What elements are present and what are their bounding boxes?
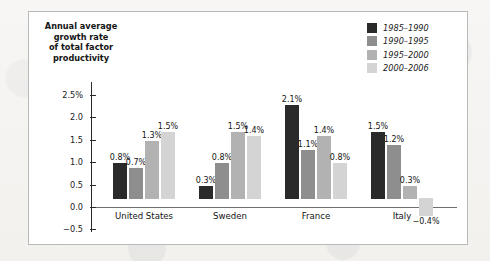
bar-group-bars: 0.3%0.8%1.5%1.4% <box>199 198 263 199</box>
y-tick-label: 1.0 <box>70 157 83 167</box>
bar-value-label: 2.1% <box>282 95 302 104</box>
bar-rect <box>317 136 331 199</box>
bar-italy-2[interactable]: 0.3% <box>403 198 417 199</box>
bar-italy-0[interactable]: 1.5% <box>371 198 385 199</box>
y-tick-label: 0.0 <box>70 202 83 212</box>
bar-value-label: 1.1% <box>298 140 318 149</box>
bar-value-label: 1.4% <box>314 126 334 135</box>
bar-value-label: 1.2% <box>384 135 404 144</box>
chart-figure: Annual averagegrowth rateof total factor… <box>0 0 490 261</box>
bar-value-label: 0.8% <box>212 153 232 162</box>
bar-value-label: 0.3% <box>400 176 420 185</box>
bar-france-3[interactable]: 0.8% <box>333 198 347 199</box>
y-tick-label: 2.5% <box>62 90 83 100</box>
y-tick-mark <box>90 117 96 118</box>
bar-value-label: 1.3% <box>142 131 162 140</box>
y-tick-mark <box>90 162 96 163</box>
bar-rect <box>301 150 315 199</box>
bar-france-1[interactable]: 1.1% <box>301 198 315 199</box>
y-tick-label: 0.5 <box>70 180 83 190</box>
bar-france-0[interactable]: 2.1% <box>285 198 299 199</box>
bar-value-label: 0.7% <box>126 158 146 167</box>
bar-italy-3[interactable]: −0.4% <box>419 198 433 199</box>
chart-panel: Annual averagegrowth rateof total factor… <box>28 11 468 245</box>
y-tick-mark <box>90 185 96 186</box>
bar-rect <box>129 168 143 199</box>
y-axis-line <box>91 82 92 232</box>
bar-group-bars: 2.1%1.1%1.4%0.8% <box>285 198 349 199</box>
bar-rect <box>215 163 229 199</box>
bar-rect <box>285 105 299 199</box>
y-tick-mark <box>90 229 96 230</box>
bar-group-bars: 1.5%1.2%0.3%−0.4% <box>371 198 435 199</box>
plot-area: 2.5%2.01.51.00.50.0−0.5 0.8%0.7%1.3%1.5%… <box>91 12 463 244</box>
bar-united-states-2[interactable]: 1.3% <box>145 198 159 199</box>
bar-italy-1[interactable]: 1.2% <box>387 198 401 199</box>
bar-value-label: 1.5% <box>158 122 178 131</box>
bar-france-2[interactable]: 1.4% <box>317 198 331 199</box>
bar-group-bars: 0.8%0.7%1.3%1.5% <box>113 198 177 199</box>
bar-united-states-3[interactable]: 1.5% <box>161 198 175 199</box>
x-label-france: France <box>285 211 347 221</box>
bar-sweden-3[interactable]: 1.4% <box>247 198 261 199</box>
bar-united-states-1[interactable]: 0.7% <box>129 198 143 199</box>
bar-sweden-0[interactable]: 0.3% <box>199 198 213 199</box>
y-tick-label: 2.0 <box>70 112 83 122</box>
bar-rect <box>247 136 261 199</box>
y-tick-mark <box>90 95 96 96</box>
bar-value-label: 1.5% <box>368 122 388 131</box>
bar-sweden-2[interactable]: 1.5% <box>231 198 245 199</box>
bar-value-label: 0.3% <box>196 176 216 185</box>
bar-rect <box>403 186 417 199</box>
bar-rect <box>333 163 347 199</box>
x-label-sweden: Sweden <box>199 211 261 221</box>
bar-rect <box>199 186 213 199</box>
x-label-united-states: United States <box>113 211 175 221</box>
bar-rect <box>231 132 245 199</box>
y-tick-mark <box>90 207 96 208</box>
bar-value-label: 0.8% <box>330 153 350 162</box>
y-tick-mark <box>90 140 96 141</box>
bar-rect <box>145 141 159 199</box>
zero-baseline <box>91 207 457 208</box>
bar-value-label: 1.4% <box>244 126 264 135</box>
bar-united-states-0[interactable]: 0.8% <box>113 198 127 199</box>
bar-sweden-1[interactable]: 0.8% <box>215 198 229 199</box>
y-tick-label: 1.5 <box>70 135 83 145</box>
bar-rect <box>387 145 401 199</box>
y-tick-label: −0.5 <box>63 224 83 234</box>
bar-rect <box>113 163 127 199</box>
bar-rect <box>161 132 175 199</box>
x-label-italy: Italy <box>371 211 433 221</box>
